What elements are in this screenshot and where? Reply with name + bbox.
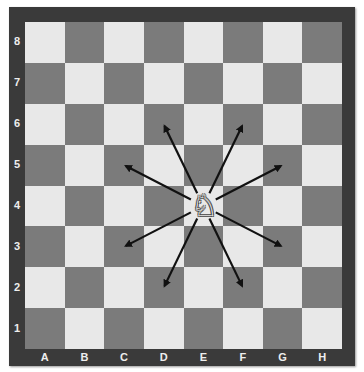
arrow-to-c3 xyxy=(126,212,191,246)
arrow-to-c5 xyxy=(126,166,191,200)
arrow-to-d6 xyxy=(165,126,198,193)
move-arrows xyxy=(0,0,364,372)
arrow-to-f6 xyxy=(209,126,242,193)
arrow-to-f2 xyxy=(209,219,242,286)
white-knight-icon[interactable]: ♘ xyxy=(188,190,220,222)
arrow-to-d2 xyxy=(165,219,198,286)
arrow-to-g3 xyxy=(216,212,281,246)
arrow-to-g5 xyxy=(216,166,281,200)
